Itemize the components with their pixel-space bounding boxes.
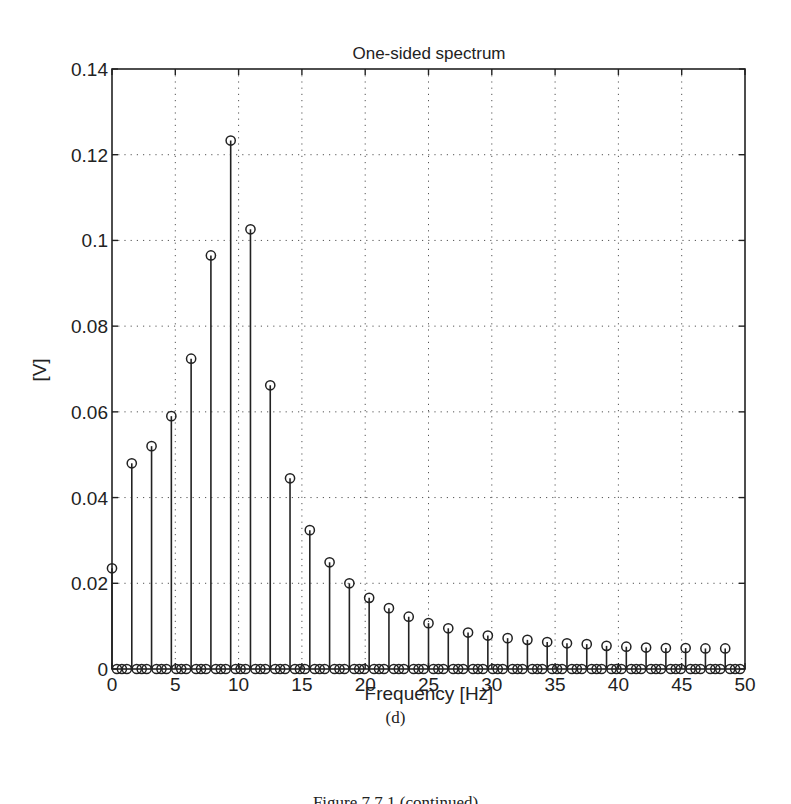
- y-tick-label: 0.1: [82, 230, 108, 251]
- y-tick-label: 0.02: [71, 573, 108, 594]
- y-axis-label: [V]: [29, 358, 50, 381]
- chart-title: One-sided spectrum: [352, 44, 505, 63]
- x-tick-label: 5: [170, 674, 181, 695]
- x-axis-ticks: 05101520253035404550: [107, 69, 756, 695]
- grid-lines: [112, 69, 745, 669]
- stem-chart: One-sided spectrum 00.020.040.060.080.10…: [0, 0, 791, 740]
- y-tick-label: 0.06: [71, 402, 108, 423]
- y-tick-label: 0.12: [71, 145, 108, 166]
- data-stems: [107, 136, 744, 674]
- figure-caption: Figure 7.7.1 (continued): [0, 790, 791, 804]
- x-tick-label: 35: [545, 674, 566, 695]
- x-tick-label: 0: [107, 674, 118, 695]
- x-axis-label: Frequency [Hz]: [365, 683, 494, 704]
- x-tick-label: 15: [291, 674, 312, 695]
- y-tick-label: 0.08: [71, 316, 108, 337]
- y-tick-label: 0.14: [71, 59, 108, 80]
- x-tick-label: 10: [228, 674, 249, 695]
- y-tick-label: 0.04: [71, 488, 108, 509]
- x-tick-label: 50: [734, 674, 755, 695]
- x-tick-label: 40: [608, 674, 629, 695]
- axes-frame: [112, 69, 745, 669]
- x-tick-label: 45: [671, 674, 692, 695]
- subfigure-caption: (d): [0, 708, 791, 728]
